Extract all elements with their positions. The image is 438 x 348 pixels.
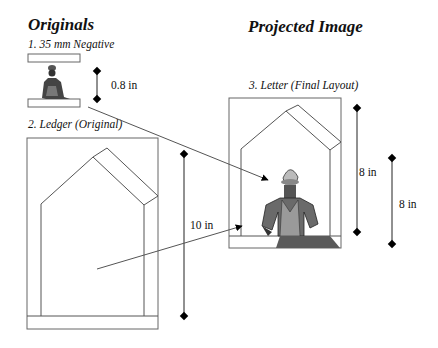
heading-projected-image: Projected Image [247,17,363,36]
ledger-original [27,138,158,329]
dimension-negative-label: 0.8 in [111,79,137,91]
dimension-letter-label: 8 in [359,166,377,178]
heading-originals: Originals [28,15,95,34]
dimension-negative: 0.8 in [93,67,138,103]
label-negative: 1. 35 mm Negative [28,38,114,51]
projection-diagram: Originals Projected Image 1. 35 mm Negat… [0,0,438,348]
dimension-letter: 8 in [353,104,377,236]
negative-person-image [42,65,70,99]
negative-film [28,54,80,107]
dimension-projected-image: 8 in [388,154,417,248]
label-ledger: 2. Ledger (Original) [28,118,122,131]
dimension-projected-image-label: 8 in [399,198,417,210]
dimension-ledger-label: 10 in [190,219,214,231]
letter-final-layout [229,98,341,248]
dimension-ledger: 10 in [180,150,214,320]
label-letter: 3. Letter (Final Layout) [248,79,358,92]
